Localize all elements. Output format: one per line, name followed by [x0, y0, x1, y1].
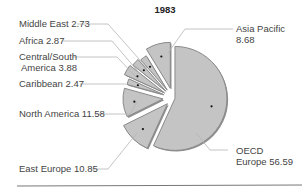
- slice-marker-dot: [149, 66, 151, 68]
- label-asia-2: 8.68: [236, 34, 255, 45]
- label-caribbean: Caribbean 2.47: [19, 78, 84, 89]
- bottom-rule: [17, 185, 302, 186]
- pie-chart: 1983 Middle East 2.73 Africa 2.87 Centra…: [0, 0, 302, 194]
- slice-marker-dot: [143, 69, 145, 71]
- slice-marker-dot: [160, 55, 162, 57]
- label-csa-1: Central/South: [19, 51, 77, 62]
- label-oecd-2: Europe 56.59: [236, 156, 293, 167]
- chart-title: 1983: [154, 4, 175, 15]
- label-asia-1: Asia Pacific: [236, 23, 285, 34]
- label-csa-2: America 3.88: [21, 62, 77, 73]
- label-oecd-1: OECD: [236, 145, 264, 156]
- label-africa: Africa 2.87: [19, 35, 64, 46]
- label-east-europe: East Europe 10.85: [19, 163, 98, 174]
- label-middle-east: Middle East 2.73: [19, 18, 90, 29]
- slice-marker-dot: [133, 101, 135, 103]
- label-north-america: North America 11.58: [19, 108, 105, 119]
- slice-marker-dot: [142, 128, 144, 130]
- slice-marker-dot: [210, 105, 212, 107]
- slice-marker-dot: [137, 84, 139, 86]
